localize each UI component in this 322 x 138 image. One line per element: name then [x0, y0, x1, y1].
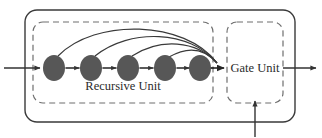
- gate-unit-label: Gate Unit: [231, 61, 280, 75]
- recursive-node: [43, 55, 65, 81]
- recursive-node: [80, 55, 102, 81]
- recursive-unit-label: Recursive Unit: [85, 79, 161, 93]
- recursive-gate-diagram: Recursive Unit Gate Unit: [0, 0, 322, 138]
- diagram-canvas: Recursive Unit Gate Unit: [0, 0, 322, 138]
- recursive-node: [117, 55, 139, 81]
- recursive-node: [189, 55, 211, 81]
- recursive-node: [154, 55, 176, 81]
